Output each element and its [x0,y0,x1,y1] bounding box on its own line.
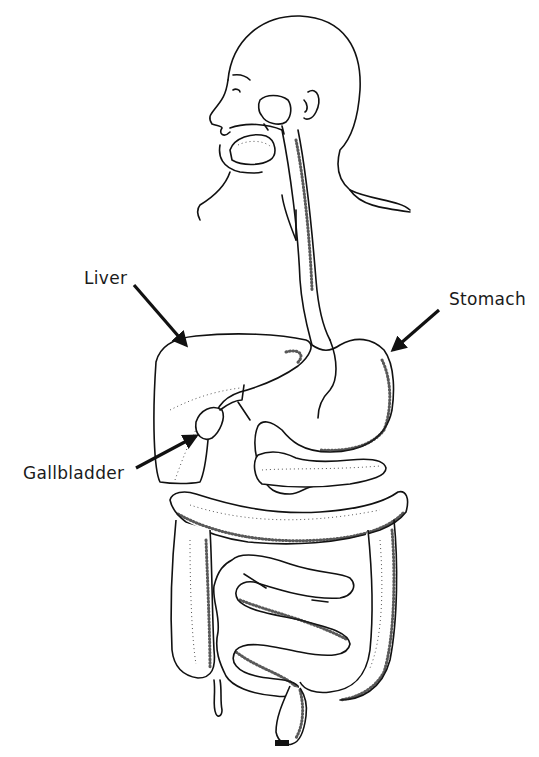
digestive-system-diagram [0,0,539,757]
liver-label: Liver [84,268,127,288]
anus [275,740,289,746]
stomach-label: Stomach [449,289,526,309]
esophagus [282,130,330,345]
gallbladder-label: Gallbladder [23,463,124,483]
stomach-arrow [393,310,439,350]
liver-arrow [134,285,186,345]
pancreas [255,452,386,487]
